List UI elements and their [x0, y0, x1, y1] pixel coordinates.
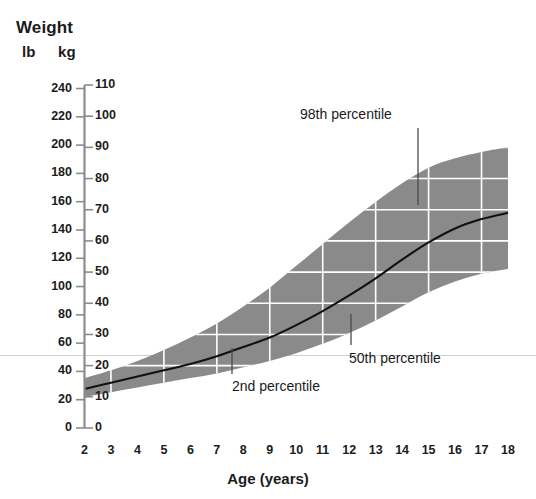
annotation-2nd-percentile: 2nd percentile: [232, 378, 320, 394]
x-axis-tick-label: 16: [443, 443, 467, 457]
growth-chart: Weight lb kg 020: [0, 0, 536, 499]
x-axis-tick-label: 3: [99, 443, 123, 457]
y-axis-tick-label-lb: 180: [38, 165, 72, 179]
x-axis-tick-label: 17: [470, 443, 494, 457]
y-axis-unit-lb: lb: [22, 43, 36, 60]
y-axis-tick-label-lb: 20: [38, 392, 72, 406]
annotation-98th-percentile: 98th percentile: [300, 106, 392, 122]
y-axis-tick-label-kg: 80: [95, 171, 129, 185]
x-axis-tick-label: 9: [258, 443, 282, 457]
x-axis-tick-label: 10: [284, 443, 308, 457]
y-axis-tick-label-lb: 100: [38, 279, 72, 293]
y-axis-tick-label-kg: 90: [95, 139, 129, 153]
y-axis-tick-label-kg: 60: [95, 233, 129, 247]
x-axis-tick-label: 4: [125, 443, 149, 457]
x-axis-tick-label: 13: [364, 443, 388, 457]
chart-title: Weight: [16, 18, 73, 38]
y-axis-ticks-lb: [76, 89, 85, 428]
y-axis-tick-label-kg: 10: [95, 389, 129, 403]
y-axis-tick-label-kg: 0: [95, 420, 129, 434]
y-axis-tick-label-kg: 70: [95, 202, 129, 216]
y-axis-tick-label-kg: 40: [95, 295, 129, 309]
y-axis-tick-label-kg: 110: [95, 77, 129, 91]
y-axis-tick-label-lb: 160: [38, 194, 72, 208]
x-axis-tick-label: 2: [73, 443, 97, 457]
x-axis-tick-label: 15: [417, 443, 441, 457]
y-axis-unit-kg: kg: [58, 43, 76, 60]
y-axis-tick-label-lb: 140: [38, 222, 72, 236]
y-axis-tick-label-lb: 0: [38, 420, 72, 434]
y-axis-tick-label-kg: 20: [95, 358, 129, 372]
x-axis-tick-label: 18: [496, 443, 520, 457]
x-axis-tick-label: 7: [205, 443, 229, 457]
y-axis-tick-label-lb: 60: [38, 335, 72, 349]
x-axis-tick-label: 14: [390, 443, 414, 457]
x-axis-tick-label: 6: [178, 443, 202, 457]
y-axis-tick-label-lb: 220: [38, 109, 72, 123]
x-axis-tick-label: 5: [152, 443, 176, 457]
y-axis-tick-label-lb: 200: [38, 137, 72, 151]
x-axis-tick-label: 12: [337, 443, 361, 457]
y-axis-tick-label-lb: 40: [38, 363, 72, 377]
y-axis-tick-label-lb: 240: [38, 81, 72, 95]
x-axis-tick-label: 8: [231, 443, 255, 457]
y-axis-tick-label-kg: 100: [95, 108, 129, 122]
x-axis-tick-label: 11: [311, 443, 335, 457]
y-axis-tick-label-lb: 80: [38, 307, 72, 321]
annotation-50th-percentile: 50th percentile: [349, 350, 441, 366]
y-axis-tick-label-lb: 120: [38, 250, 72, 264]
y-axis-tick-label-kg: 30: [95, 326, 129, 340]
y-axis-tick-label-kg: 50: [95, 264, 129, 278]
x-axis-title: Age (years): [0, 470, 536, 487]
plot-area: [0, 0, 536, 499]
